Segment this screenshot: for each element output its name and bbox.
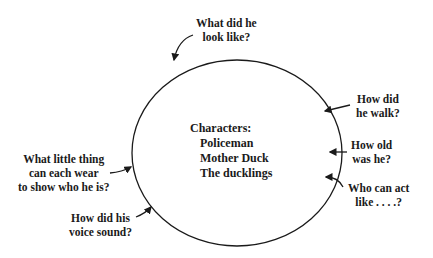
characters-heading: Characters: — [190, 121, 272, 136]
prompt-act: Who can act like . . . .? — [348, 181, 409, 209]
arrow-voice — [136, 207, 151, 217]
prompt-age: How old was he? — [351, 138, 392, 166]
prompt-look: What did he look like? — [196, 16, 257, 44]
character-item: The ducklings — [190, 166, 272, 181]
character-item: Mother Duck — [190, 151, 272, 166]
prompt-walk: How did he walk? — [356, 92, 400, 120]
characters-list: Characters: Policeman Mother Duck The du… — [190, 121, 272, 181]
prompt-wear: What little thing can each wear to show … — [18, 152, 109, 194]
arrow-act — [326, 177, 343, 187]
prompt-voice: How did his voice sound? — [69, 211, 132, 239]
arrow-look — [174, 35, 193, 60]
character-item: Policeman — [190, 136, 272, 151]
arrow-wear — [110, 167, 131, 173]
